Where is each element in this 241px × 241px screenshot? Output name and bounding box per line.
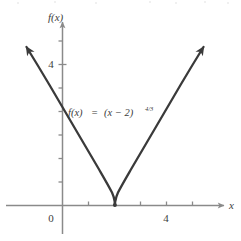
- equation-exponent: 4/3: [145, 105, 154, 112]
- curve-path: [27, 47, 204, 205]
- equation-annotation: f(x) = (x − 2) 4/3: [68, 105, 154, 119]
- vertex-point-marker: [113, 203, 117, 207]
- origin-tick-label: 0: [48, 212, 54, 224]
- function-curve-group: [27, 47, 204, 207]
- graph-figure: f(x) x 0 4 4 f(x) = (x − 2) 4/3: [0, 0, 241, 241]
- y-axis-label: f(x): [48, 11, 64, 24]
- graph-canvas: f(x) x 0 4 4 f(x) = (x − 2) 4/3: [0, 0, 241, 241]
- x-tick-label-4: 4: [163, 212, 169, 224]
- x-axis-label: x: [228, 199, 234, 211]
- equation-equals: =: [91, 107, 98, 118]
- equation-lhs: f(x): [68, 107, 83, 119]
- y-tick-label-4: 4: [48, 58, 54, 70]
- equation-rhs-base: (x − 2): [104, 107, 134, 119]
- labels-group: f(x) x 0 4 4 f(x) = (x − 2) 4/3: [48, 11, 234, 224]
